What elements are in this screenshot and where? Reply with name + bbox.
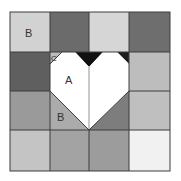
- cell-r4-c3: [89, 130, 129, 171]
- cell-r2-c4: [129, 52, 170, 91]
- heart-quilt-diagram: B A B C: [0, 0, 181, 181]
- cell-r2-c1: [10, 52, 50, 91]
- cell-r1-c4: [129, 12, 170, 52]
- cell-r4-c1: [10, 130, 50, 171]
- cell-r3-c1: [10, 91, 50, 130]
- cell-r1-c3: [89, 12, 129, 52]
- label-a-heart: A: [65, 74, 73, 86]
- label-c-corner: C: [51, 54, 57, 63]
- cell-r1-c2: [50, 12, 89, 52]
- cell-r3-c4: [129, 91, 170, 130]
- cell-r4-c4: [129, 130, 170, 171]
- cell-r4-c2: [50, 130, 89, 171]
- label-b-top-left: B: [25, 27, 32, 39]
- label-b-lower-left: B: [57, 111, 64, 123]
